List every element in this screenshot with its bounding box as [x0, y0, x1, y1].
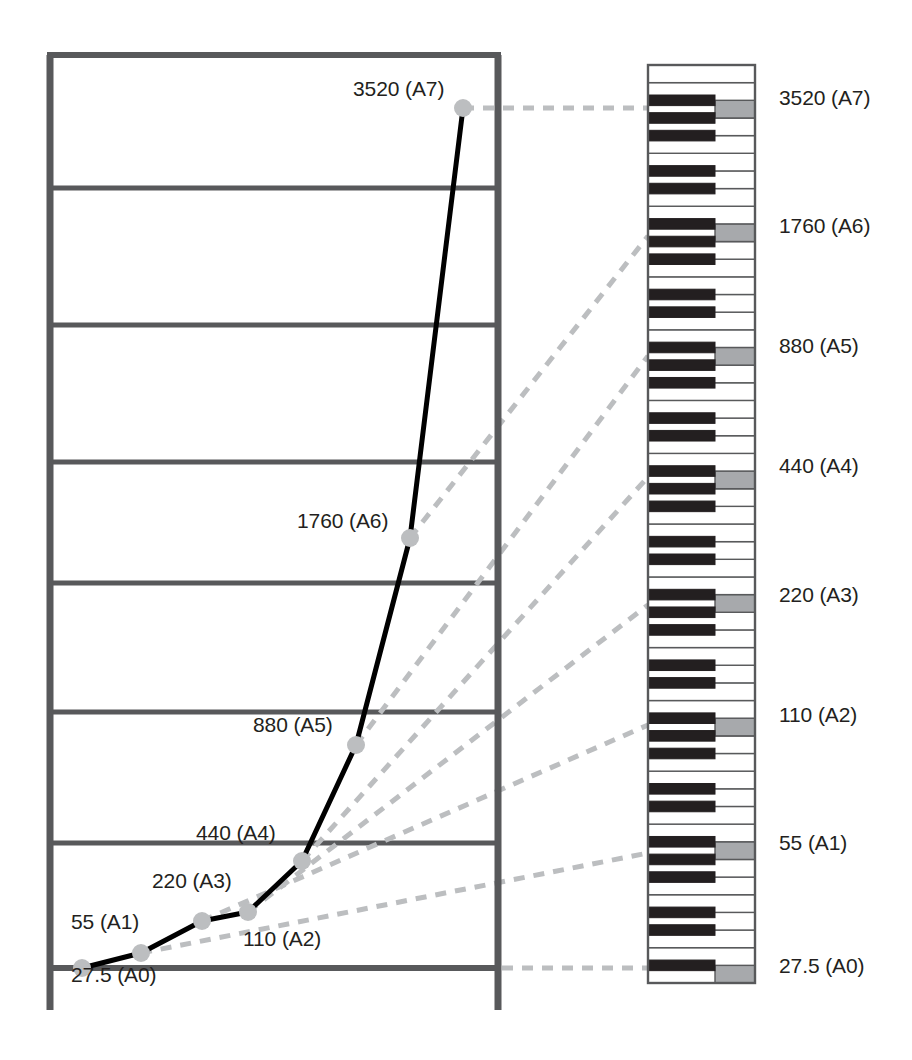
highlight-key-A-35 [715, 347, 755, 365]
point-label-A6: 1760 (A6) [297, 509, 388, 533]
point-label-A0: 27.5 (A0) [71, 963, 156, 987]
figure-canvas [0, 0, 912, 1060]
black-key-Dsharp-31[interactable] [648, 413, 715, 424]
connector-A4 [302, 477, 648, 861]
black-key-Csharp-9[interactable] [648, 801, 715, 812]
black-key-Csharp-16[interactable] [648, 678, 715, 689]
point-label-A5: 880 (A5) [253, 713, 333, 737]
black-key-Fsharp-5[interactable] [648, 872, 715, 883]
keyboard-label-A5: 880 (A5) [779, 334, 859, 358]
black-key-Dsharp-10[interactable] [648, 784, 715, 795]
keyboard-label-A7: 3520 (A7) [779, 86, 870, 110]
point-label-A1: 55 (A1) [71, 910, 139, 934]
black-key-Gsharp-48[interactable] [648, 113, 715, 124]
point-label-A2: 110 (A2) [243, 927, 321, 951]
black-key-Csharp-23[interactable] [648, 554, 715, 565]
point-label-A4: 440 (A4) [196, 821, 276, 845]
black-key-Csharp-2[interactable] [648, 925, 715, 936]
black-key-Asharp-21[interactable] [648, 589, 715, 600]
black-key-Gsharp-6[interactable] [648, 854, 715, 865]
data-point-A3[interactable] [239, 903, 257, 921]
data-point-A1[interactable] [132, 944, 150, 962]
white-key-51[interactable] [648, 65, 755, 83]
highlight-key-A-28 [715, 471, 755, 489]
data-point-A5[interactable] [347, 736, 365, 754]
highlight-key-A-42 [715, 224, 755, 242]
frequency-octave-figure: 27.5 (A0)55 (A1)110 (A2)220 (A3)440 (A4)… [0, 0, 912, 1060]
black-key-Asharp-0[interactable] [648, 960, 715, 971]
connector-A1 [141, 853, 648, 953]
point-label-A3: 220 (A3) [152, 869, 232, 893]
black-key-Dsharp-17[interactable] [648, 660, 715, 671]
black-key-Asharp-35[interactable] [648, 342, 715, 353]
highlight-key-A-0 [715, 965, 755, 983]
black-key-Dsharp-45[interactable] [648, 166, 715, 177]
keyboard-label-A6: 1760 (A6) [779, 214, 870, 238]
black-key-Csharp-44[interactable] [648, 183, 715, 194]
highlight-key-A-49 [715, 100, 755, 118]
piano-keyboard [648, 65, 755, 983]
black-key-Fsharp-19[interactable] [648, 625, 715, 636]
black-key-Fsharp-47[interactable] [648, 130, 715, 141]
keyboard-label-A0: 27.5 (A0) [779, 954, 864, 978]
black-key-Dsharp-3[interactable] [648, 907, 715, 918]
black-key-Fsharp-33[interactable] [648, 377, 715, 388]
connector-A6 [410, 236, 648, 538]
data-point-A7[interactable] [454, 99, 472, 117]
point-label-A7: 3520 (A7) [353, 77, 444, 101]
highlight-key-A-14 [715, 718, 755, 736]
data-point-A4[interactable] [293, 852, 311, 870]
black-key-Asharp-14[interactable] [648, 713, 715, 724]
black-key-Fsharp-12[interactable] [648, 748, 715, 759]
highlight-key-A-21 [715, 595, 755, 613]
black-key-Asharp-28[interactable] [648, 466, 715, 477]
black-key-Fsharp-26[interactable] [648, 501, 715, 512]
keyboard-label-A3: 220 (A3) [779, 583, 859, 607]
black-key-Gsharp-20[interactable] [648, 607, 715, 618]
black-key-Asharp-7[interactable] [648, 836, 715, 847]
black-key-Csharp-37[interactable] [648, 307, 715, 318]
black-key-Asharp-42[interactable] [648, 219, 715, 230]
keyboard-label-A4: 440 (A4) [779, 454, 859, 478]
keyboard-label-A2: 110 (A2) [779, 703, 857, 727]
black-key-Gsharp-41[interactable] [648, 236, 715, 247]
chart-frame [47, 55, 501, 1010]
black-key-Dsharp-38[interactable] [648, 289, 715, 300]
connector-A5 [356, 356, 648, 745]
black-key-Csharp-30[interactable] [648, 430, 715, 441]
black-key-Dsharp-24[interactable] [648, 536, 715, 547]
keyboard-label-A1: 55 (A1) [779, 831, 847, 855]
black-key-Fsharp-40[interactable] [648, 254, 715, 265]
data-point-A2[interactable] [193, 912, 211, 930]
highlight-key-A-7 [715, 842, 755, 860]
black-key-Gsharp-13[interactable] [648, 731, 715, 742]
dashed-connector-lines [82, 108, 648, 968]
black-key-Gsharp-34[interactable] [648, 360, 715, 371]
data-point-A6[interactable] [401, 529, 419, 547]
black-key-Gsharp-27[interactable] [648, 483, 715, 494]
black-key-Asharp-49[interactable] [648, 95, 715, 106]
